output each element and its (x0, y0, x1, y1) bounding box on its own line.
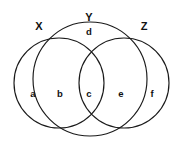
region-label-b: b (57, 89, 63, 99)
circle-x (14, 38, 104, 128)
region-label-a: a (30, 89, 35, 99)
set-label-z: Z (141, 21, 148, 32)
circle-y (33, 22, 147, 136)
region-label-d: d (86, 27, 92, 37)
circle-z (79, 38, 169, 128)
venn-diagram-canvas: X Y Z a b c d e f (0, 0, 183, 147)
set-label-y: Y (85, 12, 92, 23)
region-label-e: e (118, 89, 123, 99)
set-label-x: X (35, 21, 42, 32)
region-label-f: f (150, 89, 153, 99)
region-label-c: c (86, 89, 91, 99)
